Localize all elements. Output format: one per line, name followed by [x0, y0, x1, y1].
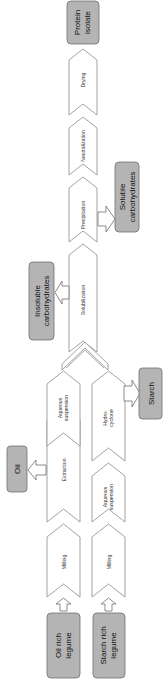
svg-text:Precipitation: Precipitation: [80, 201, 86, 230]
svg-text:Milling: Milling: [106, 555, 112, 570]
arrow-up-icon: [101, 598, 116, 611]
svg-text:Solubilization: Solubilization: [80, 285, 86, 316]
svg-text:Insoluble: Insoluble: [33, 284, 42, 317]
svg-text:carbohydrates: carbohydrates: [42, 276, 51, 327]
oil-aqueous-label-2: suspension: [63, 395, 69, 421]
oil-rich-label-1: Oil rich: [54, 633, 63, 658]
input-oil-rich-legume: Oil rich legume: [47, 613, 80, 678]
svg-text:Milling: Milling: [61, 555, 67, 570]
input-starch-rich-legume: Starch rich legume: [93, 613, 125, 678]
step-starch-milling: Milling: [92, 524, 125, 597]
svg-text:suspension: suspension: [108, 484, 114, 510]
svg-text:Protein: Protein: [73, 10, 82, 35]
step-neutralization: Neutralization: [69, 117, 97, 175]
output-oil: Oil: [7, 446, 27, 492]
process-diagram: Oil rich legume Starch rich legume Milli…: [0, 0, 163, 694]
step-drying: Drying: [69, 49, 97, 115]
step-starch-hydrocyclone: Hydro- cyclone: [92, 371, 125, 461]
starch-rich-label-1: Starch rich: [99, 626, 108, 664]
svg-text:Soluble: Soluble: [118, 183, 127, 210]
svg-text:isolate: isolate: [83, 10, 92, 34]
svg-text:carbohydrates: carbohydrates: [128, 172, 137, 223]
arrow-right-icon: [98, 206, 115, 232]
svg-text:Neutralization: Neutralization: [80, 130, 86, 162]
svg-text:Starch: Starch: [147, 382, 156, 405]
step-starch-aqueous-suspension: Aqueous suspension: [92, 463, 125, 522]
starch-rich-label-2: legume: [109, 632, 118, 659]
output-soluble-carbohydrates: Soluble carbohydrates: [115, 162, 139, 232]
output-protein-isolate: Protein isolate: [67, 1, 99, 44]
svg-text:cyclone: cyclone: [108, 409, 114, 427]
arrow-right-icon: [124, 380, 140, 407]
step-precipitation: Precipitation: [69, 177, 97, 242]
oil-rich-label-2: legume: [64, 632, 73, 659]
step-solubilization: Solubilization: [69, 244, 97, 352]
output-insoluble-carbohydrates: Insoluble carbohydrates: [29, 262, 54, 340]
svg-text:Drying: Drying: [80, 72, 86, 87]
svg-text:Extraction: Extraction: [61, 458, 67, 481]
output-starch: Starch: [139, 368, 162, 419]
arrow-left-icon: [55, 281, 69, 304]
step-oil-milling: Milling: [47, 524, 80, 597]
arrow-up-icon: [56, 598, 71, 611]
svg-text:Oil: Oil: [13, 464, 22, 474]
arrow-left-icon: [28, 460, 46, 480]
